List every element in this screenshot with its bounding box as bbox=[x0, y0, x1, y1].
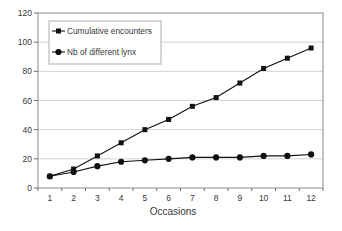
x-tick-label: 12 bbox=[306, 193, 316, 203]
square-marker bbox=[119, 140, 124, 145]
circle-marker bbox=[284, 153, 290, 159]
circle-marker bbox=[261, 153, 267, 159]
circle-marker bbox=[55, 49, 61, 55]
y-tick-label: 0 bbox=[27, 183, 32, 193]
legend-label: Nb of different lynx bbox=[67, 47, 137, 57]
circle-marker bbox=[94, 163, 100, 169]
x-tick-label: 8 bbox=[214, 193, 219, 203]
y-tick-label: 20 bbox=[23, 154, 33, 164]
legend: Cumulative encountersNb of different lyn… bbox=[49, 21, 161, 64]
circle-marker bbox=[118, 159, 124, 165]
circle-marker bbox=[71, 169, 77, 175]
y-tick-label: 80 bbox=[23, 66, 33, 76]
lynx-encounters-line-chart: 020406080100120123456789101112OccasionsC… bbox=[0, 0, 342, 231]
x-axis-title: Occasions bbox=[150, 206, 197, 217]
circle-marker bbox=[189, 154, 195, 160]
x-tick-label: 7 bbox=[190, 193, 195, 203]
x-tick-label: 11 bbox=[283, 193, 292, 203]
square-marker bbox=[261, 66, 266, 71]
x-tick-label: 6 bbox=[166, 193, 171, 203]
chart-figure: 020406080100120123456789101112OccasionsC… bbox=[0, 0, 342, 231]
square-marker bbox=[237, 81, 242, 86]
circle-marker bbox=[237, 154, 243, 160]
legend-item: Cumulative encounters bbox=[52, 26, 152, 36]
circle-marker bbox=[142, 157, 148, 163]
legend-label: Cumulative encounters bbox=[67, 26, 152, 36]
circle-marker bbox=[166, 156, 172, 162]
x-tick-label: 4 bbox=[119, 193, 124, 203]
y-tick-label: 100 bbox=[18, 37, 32, 47]
y-tick-label: 60 bbox=[23, 96, 33, 106]
square-marker bbox=[166, 117, 171, 122]
square-marker bbox=[285, 56, 290, 61]
y-tick-label: 120 bbox=[18, 8, 32, 18]
x-tick-label: 2 bbox=[71, 193, 76, 203]
y-tick-label: 40 bbox=[23, 125, 33, 135]
circle-marker bbox=[213, 154, 219, 160]
x-tick-label: 5 bbox=[143, 193, 148, 203]
square-marker bbox=[142, 127, 147, 132]
square-marker bbox=[190, 104, 195, 109]
x-tick-label: 1 bbox=[48, 193, 53, 203]
square-marker bbox=[309, 46, 314, 51]
square-marker bbox=[95, 153, 100, 158]
x-tick-label: 9 bbox=[238, 193, 243, 203]
square-marker bbox=[56, 29, 61, 34]
circle-marker bbox=[308, 151, 314, 157]
x-tick-label: 3 bbox=[95, 193, 100, 203]
x-tick-label: 10 bbox=[259, 193, 269, 203]
square-marker bbox=[214, 95, 219, 100]
circle-marker bbox=[47, 173, 53, 179]
